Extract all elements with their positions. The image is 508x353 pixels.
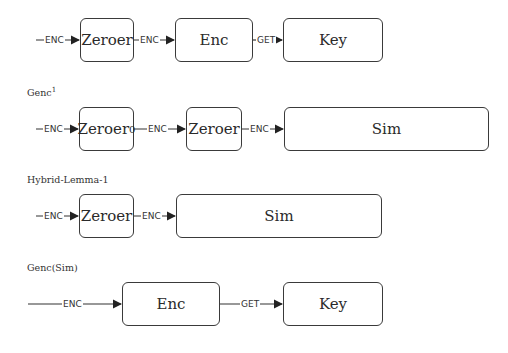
row-title: Genc(Sim): [27, 262, 78, 273]
edge-label: GET: [256, 35, 276, 45]
box-subscript: 0: [129, 124, 135, 135]
edge-label: GET: [240, 299, 260, 309]
edge-label: ENC: [249, 124, 270, 134]
sim-box: Sim: [284, 107, 489, 151]
zeroer-box: Zeroer: [80, 18, 134, 62]
row-title: Genc1: [27, 86, 56, 98]
row-title: Hybrid-Lemma-1: [27, 174, 108, 185]
box-label: Sim: [372, 120, 401, 138]
edge-label: ENC: [62, 299, 83, 309]
box-label: Key: [319, 295, 347, 313]
box-label: Zeroer: [81, 207, 133, 225]
zeroer-box: Zeroer: [186, 107, 242, 151]
edge-label: ENC: [44, 35, 65, 45]
box-label: Zeroer: [81, 31, 133, 49]
box-label: Enc: [156, 295, 185, 313]
edge-label: ENC: [43, 124, 64, 134]
box-label: Key: [319, 31, 347, 49]
enc-box: Enc: [175, 18, 253, 62]
edge-label: ENC: [139, 35, 160, 45]
zeroer0-box: Zeroer0: [79, 107, 134, 151]
edge-label: ENC: [141, 211, 162, 221]
key-box: Key: [283, 282, 383, 326]
box-label: Sim: [264, 207, 293, 225]
key-box: Key: [283, 18, 383, 62]
sim-box: Sim: [176, 194, 382, 238]
edge-label: ENC: [147, 124, 168, 134]
enc-box: Enc: [122, 282, 220, 326]
box-label: Zeroer: [78, 120, 130, 138]
edge-label: ENC: [43, 211, 64, 221]
zeroer-box: Zeroer: [79, 194, 134, 238]
box-label: Enc: [199, 31, 228, 49]
box-label: Zeroer: [188, 120, 240, 138]
